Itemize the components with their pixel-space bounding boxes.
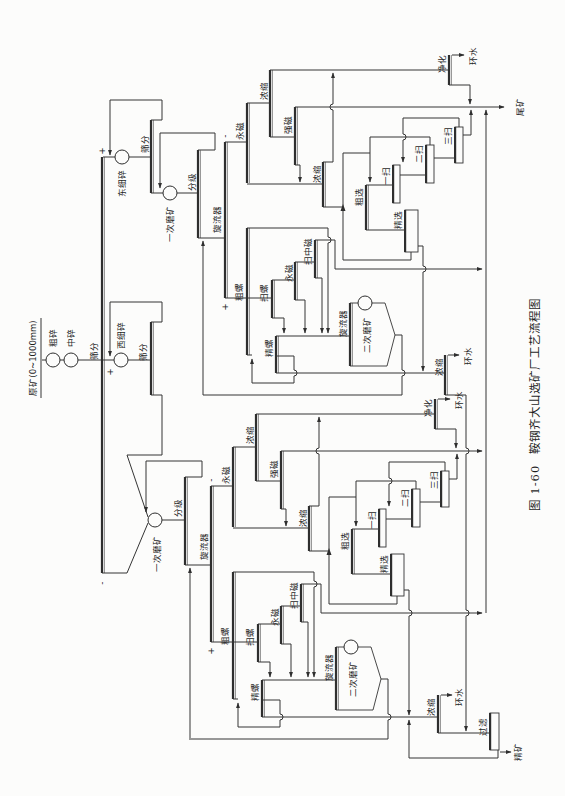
scavenger-medium-magnetic-bar <box>314 240 318 278</box>
regrind-return-line <box>203 335 405 395</box>
permanent-magnetic-2-label: 永磁 <box>284 264 294 282</box>
cleaner-spiral-label: 精螺 <box>250 683 260 701</box>
coarse-crushing-label: 粗碎 <box>48 329 58 347</box>
thickening-2-label: 浓缩 <box>298 509 308 527</box>
east-screen-bar <box>150 120 154 193</box>
east-fine-crusher-icon <box>115 150 129 164</box>
cleaner-spiral-label: 精螺 <box>264 339 274 357</box>
flotation-rougher-label: 粗选 <box>340 532 350 550</box>
east-screen-oversize-return <box>110 100 162 155</box>
scavenger-medium-magnetic-label: 扫中磁 <box>303 238 313 265</box>
east-concentrate-line <box>445 395 469 731</box>
scavenger-2-cell <box>425 145 434 183</box>
purification-label: 净化 <box>423 399 433 417</box>
permanent-magnetic-2-bar <box>294 262 298 300</box>
thickening-1-label: 浓缩 <box>245 426 255 444</box>
west-primary-mill-icon <box>148 513 162 527</box>
secondary-grinding-label: 二次磨矿 <box>348 661 358 697</box>
east-circuit-lines <box>203 55 475 395</box>
secondary-mill-block <box>350 303 395 366</box>
plus-mark: + <box>97 147 107 155</box>
scavenger-1-label: 一扫 <box>381 167 391 185</box>
east-return-water-label: 环水 <box>463 347 473 365</box>
concentrate-label: 精矿 <box>513 743 523 761</box>
east-cyclone-label: 旋流器 <box>212 206 222 233</box>
underflow-mark: + <box>220 303 230 311</box>
medium-crushing-label: 中碎 <box>66 329 76 347</box>
rougher-spiral-bar <box>246 228 250 355</box>
tailings-label: 尾矿 <box>515 98 525 116</box>
filtration-label: 过滤 <box>478 718 488 736</box>
main-screen-undersize-line <box>102 523 148 573</box>
east-screening-label: 筛分 <box>140 135 150 153</box>
high-intensity-magnetic-label: 强磁 <box>269 460 279 478</box>
purification-label: 净化 <box>437 55 447 73</box>
cyclone-2-bar <box>349 303 353 366</box>
scavenger-3-label: 三扫 <box>443 127 453 145</box>
permanent-magnetic-label: 永磁 <box>221 466 231 484</box>
flowsheet-page: 原矿(0~1000mm) 粗碎 中碎 筛分 + + - 东细碎 筛分 一次磨矿 … <box>0 0 565 796</box>
scavenger-spiral-bar <box>271 280 275 318</box>
flow-line <box>295 165 300 182</box>
return-water-label: 环水 <box>454 391 464 409</box>
west-primary-grinding-label: 一次磨矿 <box>152 536 162 572</box>
caption-title: 鞍钢齐大山选矿厂工艺流程图 <box>528 298 542 454</box>
purification-discharge <box>449 85 470 104</box>
rougher-spiral-label: 粗螺 <box>220 627 230 645</box>
rougher-spiral-label: 粗螺 <box>234 283 244 301</box>
west-cyclone-label: 旋流器 <box>199 533 209 560</box>
east-classifier-bar <box>197 150 201 238</box>
flotation-rougher-bar <box>365 185 369 230</box>
minus-mark: - <box>97 581 107 584</box>
scavenger-3-tailings <box>463 110 471 135</box>
permanent-magnetic-label: 永磁 <box>235 122 245 140</box>
west-fine-crushing-label: 西细碎 <box>116 322 126 349</box>
coarse-crusher-icon <box>46 353 60 367</box>
cleaner-spiral-bar <box>275 336 279 373</box>
main-screen-bar <box>101 157 105 573</box>
medium-magnetic-tailings <box>315 240 470 269</box>
west-classification-label: 分级 <box>173 499 183 517</box>
permanent-magnetic-bar <box>246 103 250 183</box>
west-screening-label: 筛分 <box>138 343 148 361</box>
permanent-magnetic-2-label: 永磁 <box>270 608 280 626</box>
underflow-mark: + <box>206 647 216 655</box>
west-return-water-label: 环水 <box>454 688 464 706</box>
flotation-cleaner-label: 精选 <box>393 211 403 229</box>
east-classification-label: 分级 <box>187 173 197 191</box>
filter-cell <box>489 713 499 750</box>
scavenger-2-label: 二扫 <box>414 145 424 163</box>
secondary-mill-icon <box>358 296 372 310</box>
east-primary-mill-icon <box>163 186 177 200</box>
cyclone-split-bar <box>224 142 228 298</box>
flotation-cleaner-cell <box>404 210 418 252</box>
scavenger-1-label: 一扫 <box>367 511 377 529</box>
thickener-2-overflow <box>323 73 333 162</box>
east-concentrate-thickener-bar <box>444 355 448 395</box>
west-concentrate-thickening-label: 浓缩 <box>426 698 436 716</box>
thickening-2-label: 浓缩 <box>312 165 322 183</box>
west-circuit-lines <box>189 399 461 739</box>
cyclone-2-label: 旋流器 <box>338 310 348 337</box>
crushing-section: 原矿(0~1000mm) 粗碎 中碎 筛分 + + - 东细碎 筛分 一次磨矿 … <box>28 100 225 738</box>
scavenger-spiral-label: 扫螺 <box>245 628 255 646</box>
plus-mark: + <box>105 368 115 376</box>
cleaner-spiral-middlings-loop <box>252 356 297 383</box>
flow-line <box>295 300 305 333</box>
flow-line <box>315 278 322 333</box>
scavenger-3-label: 三扫 <box>429 471 439 489</box>
scavenger-3-cell <box>454 127 463 163</box>
figure-caption: 图 1-60 鞍钢齐大山选矿厂工艺流程图 <box>528 298 542 511</box>
west-screen-bar <box>150 322 154 395</box>
overflow-mark: - <box>206 478 216 481</box>
high-intensity-magnetic-label: 强磁 <box>283 116 293 134</box>
high-intensity-magnetic-bar <box>294 107 298 165</box>
scavenger-spiral-label: 扫螺 <box>259 284 269 302</box>
east-primary-grinding-label: 一次磨矿 <box>165 206 175 242</box>
cleaner-tailings-return <box>343 252 411 260</box>
flowsheet-diagram: 原矿(0~1000mm) 粗碎 中碎 筛分 + + - 东细碎 筛分 一次磨矿 … <box>0 0 565 796</box>
overflow-mark: - <box>220 134 230 137</box>
medium-crusher-icon <box>64 353 78 367</box>
flow-line <box>272 318 284 333</box>
cleaner-concentrate-line <box>418 246 426 371</box>
